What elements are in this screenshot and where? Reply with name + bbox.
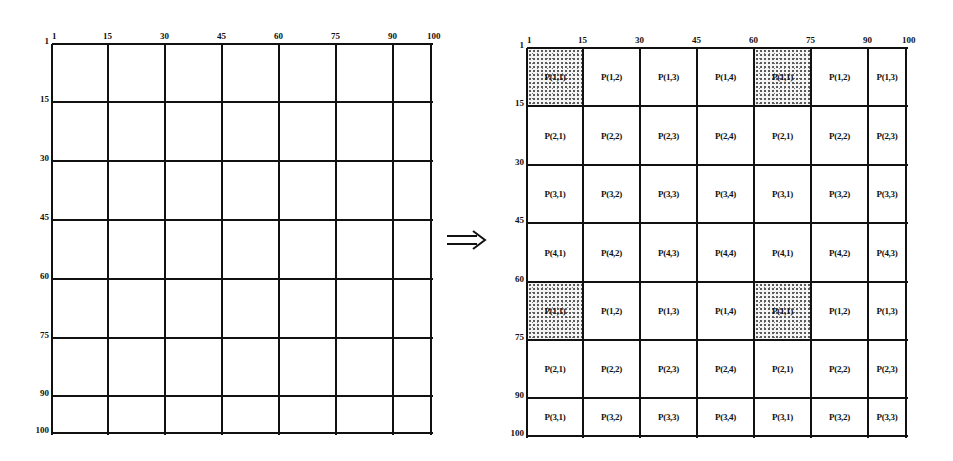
processor-cell: P(3,2) bbox=[584, 166, 639, 222]
y-axis-tick-label: 100 bbox=[511, 429, 525, 438]
processor-cell: P(2,1) bbox=[755, 107, 810, 164]
x-axis-tick-label: 45 bbox=[692, 36, 701, 45]
processor-cell: P(3,1) bbox=[755, 166, 810, 222]
processor-cell-shaded: P(1,1) bbox=[755, 283, 810, 339]
processor-cell: P(2,1) bbox=[528, 107, 582, 164]
grid-line-vertical bbox=[278, 44, 280, 435]
processor-cell: P(1,3) bbox=[641, 49, 696, 105]
processor-cell: P(3,1) bbox=[528, 399, 582, 435]
x-axis-tick-label: 90 bbox=[388, 32, 397, 41]
processor-cell: P(3,3) bbox=[641, 166, 696, 222]
processor-cell: P(1,3) bbox=[869, 49, 905, 105]
y-axis-tick-label: 30 bbox=[515, 158, 524, 167]
processor-cell: P(3,1) bbox=[755, 399, 810, 435]
processor-cell: P(4,1) bbox=[755, 224, 810, 281]
processor-cell: P(3,4) bbox=[698, 399, 753, 435]
grid-line-horizontal bbox=[52, 432, 433, 434]
y-axis-tick-label: 90 bbox=[40, 389, 49, 398]
y-axis-tick-label: 15 bbox=[515, 99, 524, 108]
processor-cell: P(3,3) bbox=[869, 166, 905, 222]
grid-line-vertical bbox=[430, 44, 432, 435]
x-axis-tick-label: 60 bbox=[749, 36, 758, 45]
processor-cell: P(2,2) bbox=[584, 107, 639, 164]
y-axis-tick-label: 100 bbox=[36, 426, 50, 435]
y-axis-tick-label: 45 bbox=[40, 213, 49, 222]
x-axis-tick-label: 1 bbox=[527, 36, 532, 45]
y-axis-tick-label: 1 bbox=[45, 37, 50, 46]
processor-cell: P(1,4) bbox=[698, 49, 753, 105]
processor-cell: P(2,2) bbox=[812, 341, 867, 397]
grid-line-horizontal bbox=[52, 337, 433, 339]
processor-cell: P(2,3) bbox=[869, 107, 905, 164]
grid-line-horizontal bbox=[52, 219, 433, 221]
x-axis-tick-label: 15 bbox=[103, 32, 112, 41]
grid-line-horizontal bbox=[52, 43, 433, 45]
grid-line-vertical bbox=[221, 44, 223, 435]
y-axis-tick-label: 75 bbox=[515, 333, 524, 342]
processor-cell: P(4,1) bbox=[528, 224, 582, 281]
processor-cell: P(1,2) bbox=[812, 283, 867, 339]
y-axis-tick-label: 60 bbox=[515, 275, 524, 284]
y-axis-tick-label: 15 bbox=[40, 95, 49, 104]
grid-line-vertical bbox=[335, 44, 337, 435]
grid-line-horizontal bbox=[52, 395, 433, 397]
processor-cell: P(4,3) bbox=[869, 224, 905, 281]
grid-line-horizontal bbox=[527, 435, 908, 437]
y-axis-tick-label: 60 bbox=[40, 272, 49, 281]
processor-cell: P(2,3) bbox=[869, 341, 905, 397]
processor-cell: P(3,2) bbox=[812, 399, 867, 435]
processor-cell: P(2,2) bbox=[812, 107, 867, 164]
processor-cell: P(2,2) bbox=[584, 341, 639, 397]
y-axis-tick-label: 1 bbox=[520, 41, 525, 50]
x-axis-tick-label: 60 bbox=[274, 32, 283, 41]
processor-cell: P(4,2) bbox=[812, 224, 867, 281]
processor-cell-shaded: P(1,1) bbox=[755, 49, 810, 105]
processor-cell: P(2,3) bbox=[641, 107, 696, 164]
processor-cell: P(4,4) bbox=[698, 224, 753, 281]
x-axis-tick-label: 45 bbox=[217, 32, 226, 41]
processor-cell: P(4,3) bbox=[641, 224, 696, 281]
x-axis-tick-label: 90 bbox=[863, 36, 872, 45]
processor-cell: P(3,4) bbox=[698, 166, 753, 222]
processor-cell: P(3,2) bbox=[584, 399, 639, 435]
grid-line-vertical bbox=[905, 48, 907, 438]
processor-cell: P(1,3) bbox=[869, 283, 905, 339]
processor-cell: P(3,2) bbox=[812, 166, 867, 222]
grid-line-vertical bbox=[164, 44, 166, 435]
grid-line-vertical bbox=[51, 44, 53, 435]
processor-cell: P(2,1) bbox=[755, 341, 810, 397]
y-axis-tick-label: 75 bbox=[40, 331, 49, 340]
processor-cell: P(1,3) bbox=[641, 283, 696, 339]
processor-cell: P(1,2) bbox=[812, 49, 867, 105]
x-axis-tick-label: 30 bbox=[160, 32, 169, 41]
y-axis-tick-label: 45 bbox=[515, 216, 524, 225]
processor-cell: P(2,3) bbox=[641, 341, 696, 397]
processor-cell: P(3,3) bbox=[641, 399, 696, 435]
x-axis-tick-label: 30 bbox=[635, 36, 644, 45]
processor-cell: P(2,1) bbox=[528, 341, 582, 397]
processor-cell: P(1,4) bbox=[698, 283, 753, 339]
y-axis-tick-label: 90 bbox=[515, 391, 524, 400]
x-axis-tick-label: 100 bbox=[902, 36, 916, 45]
processor-cell: P(3,1) bbox=[528, 166, 582, 222]
x-axis-tick-label: 75 bbox=[806, 36, 815, 45]
grid-line-horizontal bbox=[52, 160, 433, 162]
grid-line-vertical bbox=[392, 44, 394, 435]
grid-line-horizontal bbox=[52, 101, 433, 103]
double-right-arrow-icon bbox=[447, 229, 487, 251]
processor-cell: P(1,2) bbox=[584, 49, 639, 105]
x-axis-tick-label: 100 bbox=[427, 32, 441, 41]
x-axis-tick-label: 15 bbox=[578, 36, 587, 45]
grid-line-vertical bbox=[107, 44, 109, 435]
x-axis-tick-label: 75 bbox=[331, 32, 340, 41]
processor-cell-shaded: P(1,1) bbox=[528, 49, 582, 105]
processor-cell-shaded: P(1,1) bbox=[528, 283, 582, 339]
processor-cell: P(1,2) bbox=[584, 283, 639, 339]
processor-cell: P(2,4) bbox=[698, 107, 753, 164]
processor-cell: P(2,4) bbox=[698, 341, 753, 397]
processor-cell: P(4,2) bbox=[584, 224, 639, 281]
y-axis-tick-label: 30 bbox=[40, 154, 49, 163]
x-axis-tick-label: 1 bbox=[52, 32, 57, 41]
grid-line-horizontal bbox=[52, 278, 433, 280]
processor-cell: P(3,3) bbox=[869, 399, 905, 435]
